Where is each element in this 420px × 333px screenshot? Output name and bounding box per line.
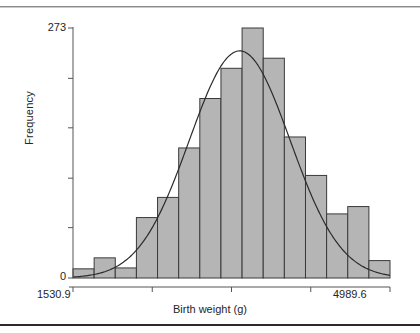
histogram-bar [242,28,263,278]
histogram-bar [136,218,157,278]
x-tick-label-min: 1530.9 [37,288,71,300]
histogram-chart [0,0,420,333]
histogram-bar [327,214,348,278]
histogram-bar [348,207,369,278]
histogram-bar [305,175,326,278]
histogram-bar [284,137,305,278]
bars-group [73,28,390,278]
histogram-bar [263,58,284,278]
histogram-bar [115,268,136,278]
histogram-bar [179,148,200,278]
histogram-bar [94,258,115,278]
histogram-bar [158,197,179,278]
y-tick-label-max: 273 [26,21,66,33]
histogram-bar [221,68,242,278]
y-tick-label-min: 0 [26,270,66,282]
x-axis-label: Birth weight (g) [0,303,420,315]
y-axis-label: Frequency [23,58,35,178]
histogram-bar [200,99,221,278]
x-tick-label-max: 4989.6 [333,288,367,300]
figure-container: Frequency 273 0 1530.9 4989.6 Birth weig… [0,0,420,333]
